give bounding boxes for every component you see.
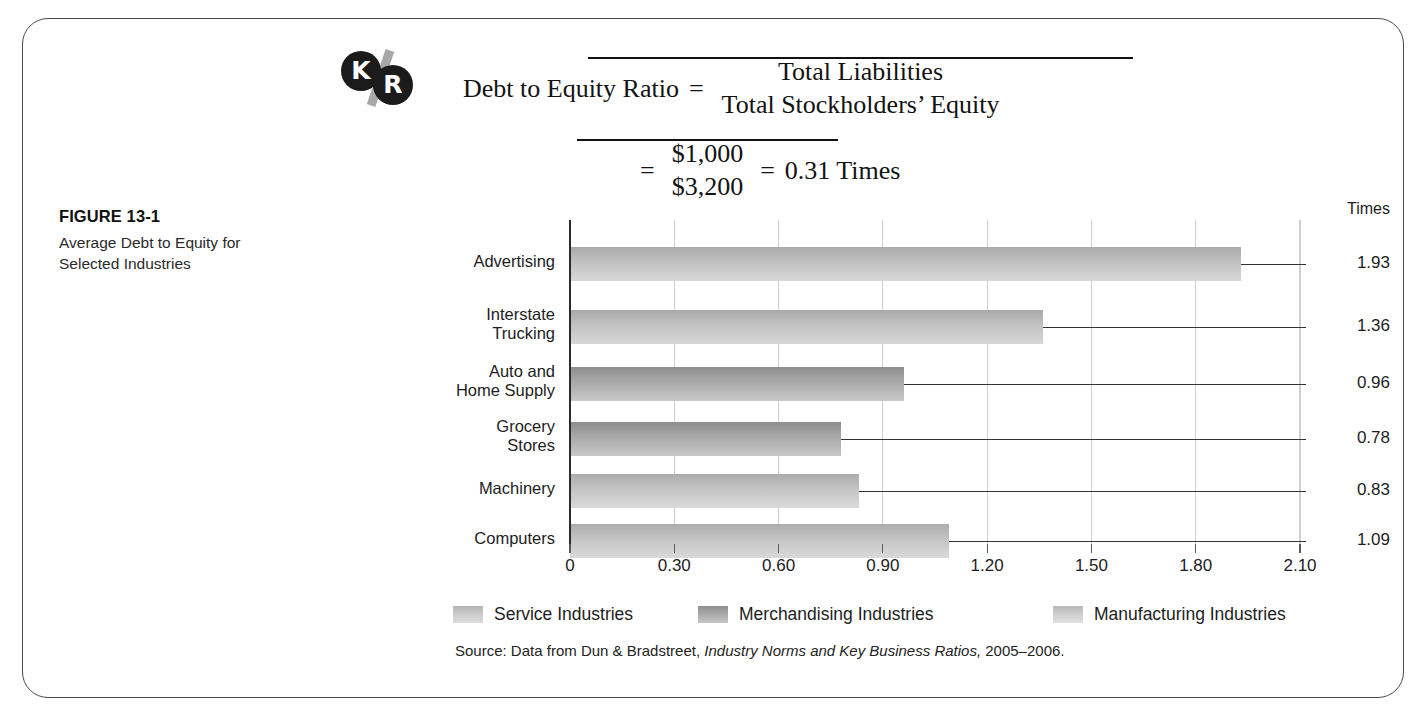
- x-tick-mark: [987, 544, 988, 553]
- category-label: Computers: [403, 529, 555, 548]
- formula-equals-3: =: [760, 156, 775, 186]
- leader-line: [1241, 264, 1306, 265]
- value-label: 1.93: [1318, 253, 1390, 273]
- value-label: 1.09: [1318, 530, 1390, 550]
- x-tick-label: 0: [565, 556, 574, 576]
- formula-denominator: Total Stockholders’ Equity: [714, 88, 1008, 120]
- fraction-bar: [588, 57, 1132, 59]
- category-label: Auto andHome Supply: [403, 362, 555, 401]
- x-tick-mark: [1091, 544, 1092, 553]
- legend-item-service: Service Industries: [453, 604, 633, 625]
- formula-line-1: Debt to Equity Ratio = Total Liabilities…: [463, 57, 1007, 120]
- bar: [570, 247, 1241, 281]
- chart-legend: Service IndustriesMerchandising Industri…: [453, 604, 1358, 630]
- x-tick-label: 0.90: [866, 556, 899, 576]
- leader-line: [904, 384, 1306, 385]
- logo-letter-r: R: [373, 65, 413, 105]
- value-axis-line: [569, 220, 571, 544]
- category-axis-labels: AdvertisingInterstateTruckingAuto andHom…: [403, 204, 563, 544]
- x-tick-mark: [778, 544, 779, 553]
- bar: [570, 310, 1043, 344]
- formula-result: 0.31 Times: [785, 156, 901, 186]
- legend-swatch: [1053, 606, 1083, 623]
- leader-line: [1043, 327, 1306, 328]
- gridline: [1299, 220, 1300, 544]
- value-unit-label: Times: [1318, 200, 1390, 218]
- formula-equals-2: =: [640, 156, 655, 186]
- formula-fraction-values: $1,000 $3,200: [664, 139, 752, 202]
- category-label: Machinery: [403, 479, 555, 498]
- source-publication-title: Industry Norms and Key Business Ratios,: [704, 642, 981, 659]
- x-tick-mark: [882, 544, 883, 553]
- formula-block: K R Debt to Equity Ratio = Total Liabili…: [313, 35, 1073, 205]
- formula-line-2: = $1,000 $3,200 = 0.31 Times: [640, 139, 900, 202]
- x-tick-label: 1.50: [1075, 556, 1108, 576]
- leader-line: [859, 491, 1306, 492]
- figure-title: Average Debt to Equity for Selected Indu…: [59, 232, 289, 275]
- x-tick-mark: [1299, 544, 1300, 553]
- x-tick-mark: [569, 544, 570, 553]
- formula-value-denominator: $3,200: [664, 170, 752, 202]
- source-prefix: Source: Data from Dun & Bradstreet,: [455, 642, 704, 659]
- formula-label: Debt to Equity Ratio: [463, 74, 679, 104]
- x-tick-label: 0.30: [658, 556, 691, 576]
- bar: [570, 474, 859, 508]
- formula-value-numerator: $1,000: [664, 139, 752, 170]
- bar-chart: AdvertisingInterstateTruckingAuto andHom…: [403, 204, 1403, 694]
- formula-numerator: Total Liabilities: [770, 57, 951, 88]
- x-tick-label: 0.60: [762, 556, 795, 576]
- legend-item-manuf: Manufacturing Industries: [1053, 604, 1286, 625]
- legend-swatch: [453, 606, 483, 623]
- legend-label: Service Industries: [494, 604, 633, 625]
- figure-number: FIGURE 13-1: [59, 207, 289, 226]
- category-label: GroceryStores: [403, 417, 555, 456]
- leader-line: [841, 439, 1306, 440]
- legend-swatch: [698, 606, 728, 623]
- fraction-bar: [577, 139, 837, 141]
- category-label: Advertising: [403, 252, 555, 271]
- formula-fraction-definition: Total Liabilities Total Stockholders’ Eq…: [714, 57, 1008, 120]
- bar: [570, 422, 841, 456]
- legend-item-merch: Merchandising Industries: [698, 604, 934, 625]
- plot-area: [570, 220, 1300, 544]
- value-label: 0.83: [1318, 480, 1390, 500]
- x-tick-label: 1.20: [971, 556, 1004, 576]
- source-suffix: 2005–2006.: [981, 642, 1064, 659]
- formula-equals: =: [689, 74, 704, 104]
- value-label: 0.78: [1318, 428, 1390, 448]
- x-tick-mark: [674, 544, 675, 553]
- value-label: 1.36: [1318, 316, 1390, 336]
- leader-line: [949, 541, 1306, 542]
- legend-label: Merchandising Industries: [739, 604, 934, 625]
- kr-logo: K R: [335, 49, 445, 105]
- value-label: 0.96: [1318, 373, 1390, 393]
- x-tick-label: 2.10: [1283, 556, 1316, 576]
- source-note: Source: Data from Dun & Bradstreet, Indu…: [455, 642, 1065, 659]
- x-tick-mark: [1195, 544, 1196, 553]
- x-tick-label: 1.80: [1179, 556, 1212, 576]
- bar: [570, 367, 904, 401]
- x-axis-ticks: 00.300.600.901.201.501.802.10: [570, 544, 1300, 584]
- figure-frame: K R Debt to Equity Ratio = Total Liabili…: [22, 18, 1404, 698]
- legend-label: Manufacturing Industries: [1094, 604, 1286, 625]
- figure-caption: FIGURE 13-1 Average Debt to Equity for S…: [59, 207, 289, 275]
- category-label: InterstateTrucking: [403, 305, 555, 344]
